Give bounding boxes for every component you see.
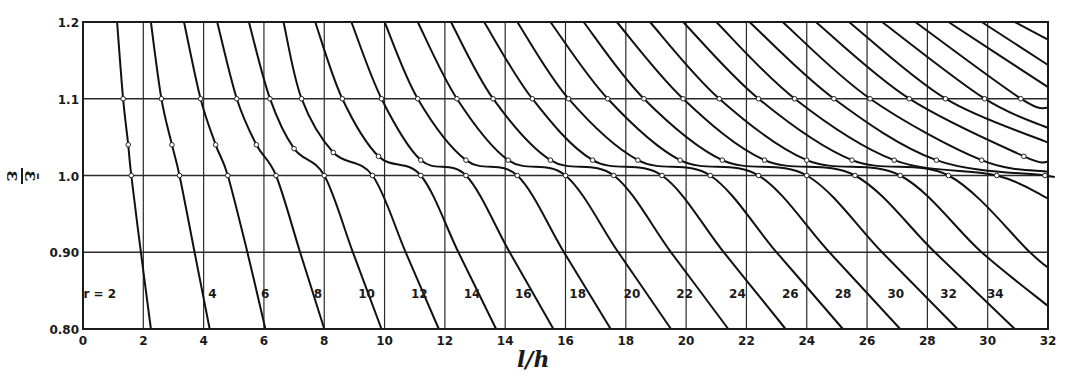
y-axis-title-denominator: ε xyxy=(6,171,20,182)
data-point-marker xyxy=(177,173,182,178)
data-point-marker xyxy=(994,173,999,178)
curve-label: 8 xyxy=(314,287,322,301)
data-point-marker xyxy=(379,96,384,101)
curve-label: 26 xyxy=(782,287,799,301)
curve-label: 30 xyxy=(887,287,904,301)
curve-label: 16 xyxy=(515,287,532,301)
data-point-marker xyxy=(717,96,722,101)
data-point-marker xyxy=(762,158,767,163)
data-point-marker xyxy=(274,173,279,178)
curve-label: 4 xyxy=(208,287,216,301)
curve-r-46 xyxy=(849,22,1048,143)
data-point-marker xyxy=(455,96,460,101)
data-point-marker xyxy=(170,143,175,148)
curve-r-50 xyxy=(915,22,1048,108)
data-point-marker xyxy=(979,158,984,163)
data-point-marker xyxy=(681,96,686,101)
y-tick-label: 0.80 xyxy=(49,323,79,337)
data-point-marker xyxy=(376,154,381,159)
y-axis-title-numerator: ε̄ xyxy=(24,171,38,182)
data-point-marker xyxy=(605,96,610,101)
x-tick-label: 18 xyxy=(617,334,634,348)
data-point-marker xyxy=(611,173,616,178)
data-point-marker xyxy=(213,143,218,148)
data-point-marker xyxy=(415,96,420,101)
curve-r-56 xyxy=(1015,22,1048,40)
x-tick-label: 2 xyxy=(139,334,147,348)
x-axis-tick-labels: 02468101214161820222426283032 xyxy=(79,334,1057,348)
y-tick-label: 0.90 xyxy=(49,246,79,260)
data-point-marker xyxy=(159,96,164,101)
data-point-marker xyxy=(853,173,858,178)
data-point-marker xyxy=(946,173,951,178)
data-point-marker xyxy=(563,173,568,178)
data-point-marker xyxy=(548,158,553,163)
data-point-marker xyxy=(121,96,126,101)
data-point-marker xyxy=(708,173,713,178)
curve-label: 32 xyxy=(940,287,957,301)
data-point-marker xyxy=(792,96,797,101)
data-point-marker xyxy=(1022,154,1027,159)
data-point-marker xyxy=(126,143,131,148)
x-tick-label: 16 xyxy=(557,334,574,348)
chart-plot: 02468101214161820222426283032 0.800.901.… xyxy=(0,0,1069,390)
curve-label: 28 xyxy=(835,287,852,301)
x-tick-label: 10 xyxy=(376,334,393,348)
data-point-marker xyxy=(566,96,571,101)
curve-label: 10 xyxy=(358,287,375,301)
data-point-marker xyxy=(530,96,535,101)
data-point-marker xyxy=(934,158,939,163)
y-tick-label: 1.2 xyxy=(58,16,79,30)
data-point-marker xyxy=(292,146,297,151)
x-tick-label: 28 xyxy=(919,334,936,348)
data-point-marker xyxy=(331,150,336,155)
curve-label: 20 xyxy=(624,287,641,301)
data-point-marker xyxy=(225,173,230,178)
curve-r-48 xyxy=(882,22,1048,128)
data-point-marker xyxy=(832,96,837,101)
data-point-marker xyxy=(254,143,259,148)
data-point-marker xyxy=(642,96,647,101)
curve-label: r = 2 xyxy=(83,287,116,301)
data-point-marker xyxy=(982,96,987,101)
y-tick-label: 1.0 xyxy=(58,170,79,184)
x-tick-label: 24 xyxy=(798,334,815,348)
curve-label: 6 xyxy=(261,287,269,301)
data-point-marker xyxy=(850,158,855,163)
data-point-marker xyxy=(678,158,683,163)
data-point-marker xyxy=(720,158,725,163)
x-tick-label: 0 xyxy=(79,334,87,348)
data-point-marker xyxy=(590,158,595,163)
data-point-marker xyxy=(418,173,423,178)
curve-label: 34 xyxy=(987,287,1004,301)
data-point-marker xyxy=(370,173,375,178)
curve-label: 18 xyxy=(569,287,586,301)
x-tick-label: 26 xyxy=(859,334,876,348)
x-tick-label: 12 xyxy=(437,334,454,348)
curve-label: 24 xyxy=(729,287,746,301)
data-point-marker xyxy=(268,96,273,101)
data-point-marker xyxy=(892,158,897,163)
data-point-marker xyxy=(506,158,511,163)
data-point-marker xyxy=(943,96,948,101)
curve-label: 12 xyxy=(411,287,428,301)
curve-label: 14 xyxy=(464,287,481,301)
data-point-marker xyxy=(464,173,469,178)
x-axis-title: l/h xyxy=(517,346,549,372)
x-tick-label: 32 xyxy=(1040,334,1057,348)
curve-r-54 xyxy=(982,22,1048,65)
x-tick-label: 30 xyxy=(979,334,996,348)
data-point-marker xyxy=(636,158,641,163)
data-point-marker xyxy=(907,96,912,101)
data-point-marker xyxy=(299,96,304,101)
y-axis-title: ε̄ ε xyxy=(6,168,38,184)
data-point-marker xyxy=(515,173,520,178)
data-markers xyxy=(121,96,1047,177)
x-tick-label: 6 xyxy=(260,334,268,348)
data-point-marker xyxy=(491,96,496,101)
data-point-marker xyxy=(322,173,327,178)
x-tick-label: 14 xyxy=(497,334,514,348)
curve-labels: r = 246810121416182022242628303234 xyxy=(83,287,1003,301)
data-point-marker xyxy=(756,96,761,101)
data-point-marker xyxy=(898,173,903,178)
